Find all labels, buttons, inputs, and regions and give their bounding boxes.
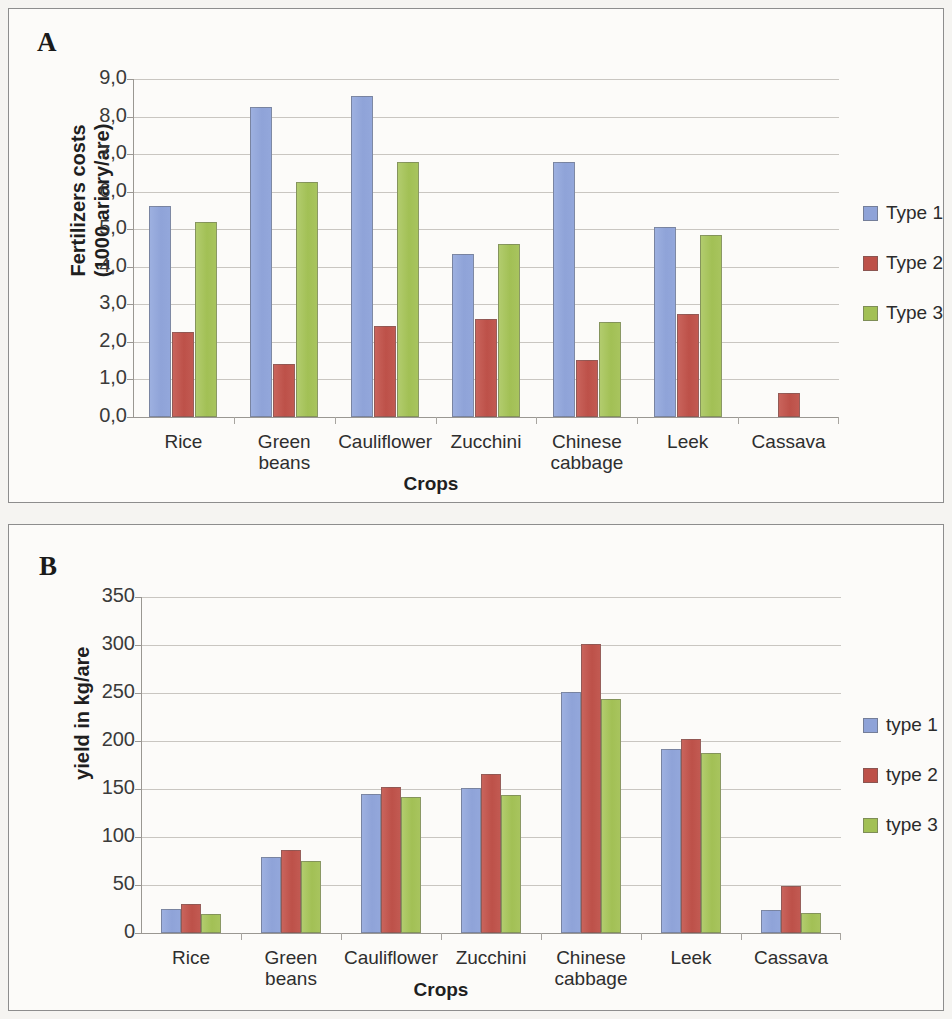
x-axis-label-line: Green (241, 947, 341, 968)
y-axis-tick-label: 1,0 (9, 366, 127, 389)
x-axis-category-label: Chinesecabbage (541, 947, 641, 990)
x-axis-category-label: Cassava (738, 431, 839, 452)
x-axis-label-line: Cassava (738, 431, 839, 452)
legend-swatch-icon (863, 206, 878, 221)
x-axis-tick (441, 933, 442, 940)
x-axis-category-label: Zucchini (436, 431, 537, 452)
bar-type-1-zucchini (461, 788, 481, 933)
y-axis-tick (127, 417, 133, 418)
figure-page: A Fertilizers costs (1000 ariary/are) Cr… (0, 0, 952, 1019)
bar-type-3-chinese-cabbage (601, 699, 621, 933)
x-axis-label-line: Cassava (741, 947, 841, 968)
x-axis-label-line: beans (234, 452, 335, 473)
legend-label: type 2 (886, 764, 938, 786)
x-axis-tick (341, 933, 342, 940)
legend-label: type 3 (886, 814, 938, 836)
legend-label: Type 3 (886, 302, 943, 324)
bar-type-1-cauliflower (361, 794, 381, 933)
bar-type-2-rice (172, 332, 194, 417)
x-axis-label-line: Rice (133, 431, 234, 452)
y-axis-tick (135, 933, 141, 934)
gridline (141, 933, 841, 934)
y-axis-tick-label: 7,0 (9, 141, 127, 164)
x-axis-category-label: Zucchini (441, 947, 541, 968)
y-axis-tick-label: 250 (9, 680, 135, 703)
legend-swatch-icon (863, 768, 878, 783)
x-axis-tick (741, 933, 742, 940)
gridline (141, 645, 841, 646)
bar-type-1-rice (161, 909, 181, 933)
x-axis-label-line: Leek (637, 431, 738, 452)
x-axis-label-line: Chinese (541, 947, 641, 968)
legend-swatch-icon (863, 306, 878, 321)
bar-type-3-leek (701, 753, 721, 933)
x-axis-label-line: beans (241, 968, 341, 989)
bar-type-3-green-beans (296, 182, 318, 417)
bar-type-1-cauliflower (351, 96, 373, 417)
x-axis-tick (838, 417, 839, 424)
gridline (133, 229, 839, 230)
x-axis-tick (335, 417, 336, 424)
bar-type-3-rice (201, 914, 221, 933)
legend-item-type-2: type 2 (863, 763, 938, 787)
gridline (133, 304, 839, 305)
y-axis-tick-label: 0 (9, 920, 135, 943)
x-axis-label-line: Cauliflower (341, 947, 441, 968)
x-axis-tick (234, 417, 235, 424)
panel-a-chart (133, 79, 839, 417)
legend-item-type-3: Type 3 (863, 301, 943, 325)
bar-type-1-green-beans (261, 857, 281, 933)
legend-label: Type 1 (886, 202, 943, 224)
x-axis-tick (536, 417, 537, 424)
x-axis-category-label: Greenbeans (234, 431, 335, 474)
y-axis-tick-label: 50 (9, 872, 135, 895)
bar-type-2-cauliflower (374, 326, 396, 417)
y-axis-tick-label: 6,0 (9, 179, 127, 202)
bar-type-2-cauliflower (381, 787, 401, 933)
y-axis-tick-label: 8,0 (9, 104, 127, 127)
y-axis-tick-label: 4,0 (9, 254, 127, 277)
legend-label: type 1 (886, 714, 938, 736)
bar-type-2-cassava (778, 393, 800, 417)
bar-type-3-leek (700, 235, 722, 417)
x-axis-category-label: Greenbeans (241, 947, 341, 990)
y-axis-line (141, 597, 142, 933)
bar-type-2-green-beans (281, 850, 301, 933)
panel-b-plot-area (141, 597, 841, 933)
x-axis-tick (541, 933, 542, 940)
gridline (133, 154, 839, 155)
bar-type-3-zucchini (498, 244, 520, 417)
legend-swatch-icon (863, 818, 878, 833)
x-axis-tick (840, 933, 841, 940)
gridline (133, 79, 839, 80)
gridline (141, 597, 841, 598)
bar-type-2-green-beans (273, 364, 295, 417)
bar-type-1-chinese-cabbage (561, 692, 581, 933)
bar-type-3-rice (195, 222, 217, 417)
y-axis-tick-label: 150 (9, 776, 135, 799)
x-axis-label-line: cabbage (536, 452, 637, 473)
y-axis-tick-label: 300 (9, 632, 135, 655)
y-axis-tick-label: 350 (9, 584, 135, 607)
x-axis-label-line: Green (234, 431, 335, 452)
gridline (133, 192, 839, 193)
y-axis-tick-label: 5,0 (9, 216, 127, 239)
x-axis-tick (436, 417, 437, 424)
bar-type-1-green-beans (250, 107, 272, 417)
bar-type-1-cassava (761, 910, 781, 933)
gridline (133, 267, 839, 268)
x-axis-category-label: Cauliflower (341, 947, 441, 968)
panel-b-x-axis-title: Crops (341, 979, 541, 1001)
legend-item-type-1: type 1 (863, 713, 938, 737)
bar-type-1-leek (654, 227, 676, 417)
bar-type-2-zucchini (475, 319, 497, 417)
y-axis-tick-label: 100 (9, 824, 135, 847)
x-axis-tick (637, 417, 638, 424)
x-axis-tick (738, 417, 739, 424)
bar-type-2-zucchini (481, 774, 501, 933)
x-axis-label-line: Rice (141, 947, 241, 968)
x-axis-category-label: Leek (641, 947, 741, 968)
legend-swatch-icon (863, 718, 878, 733)
legend-item-type-2: Type 2 (863, 251, 943, 275)
bar-type-2-chinese-cabbage (581, 644, 601, 933)
